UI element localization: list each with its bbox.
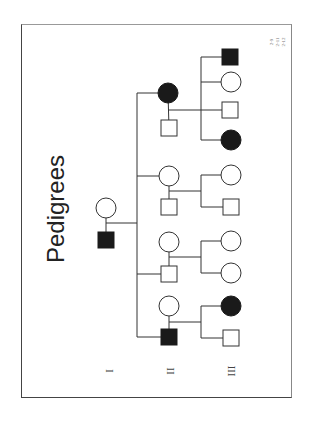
gen-II-square-unaffected-icon [161,266,177,282]
gen-III-circle-affected-icon [221,296,241,316]
reference-label: 2-9 [269,38,274,45]
gen-II-square-affected-icon [161,329,177,345]
generation-label-I: I [103,369,115,373]
title-text: Pedigrees [42,155,69,263]
gen-III-circle-affected-icon [221,130,241,150]
gen-III-circle-unaffected-icon [221,231,241,251]
generation-label-III: III [225,365,237,376]
gen-III-circle-unaffected-icon [221,72,241,92]
gen-II-spouse-square-unaffected-icon [161,199,177,215]
gen-II-spouse-square-unaffected-icon [161,120,177,136]
gen-II-circle-affected-icon [158,83,178,103]
reference-label: 2-11 [275,37,280,46]
gen-I-circle-unaffected-icon [96,198,116,218]
gen-III-circle-unaffected-icon [221,165,241,185]
gen-II-circle-unaffected-icon [159,166,179,186]
pedigree-diagram: Pedigrees 2-92-112-12 IIIIII [0,0,314,422]
gen-III-square-unaffected-icon [223,199,239,215]
gen-II-spouse-circle-unaffected-icon [159,296,179,316]
gen-III-square-affected-icon [222,49,238,65]
reference-labels: 2-92-112-12 [269,37,286,47]
gen-III-square-unaffected-icon [223,330,239,346]
gen-III-circle-unaffected-icon [221,263,241,283]
generation-labels: IIIIII [103,365,237,376]
gen-III-square-unaffected-icon [222,102,238,118]
reference-label: 2-12 [281,37,286,47]
gen-II-spouse-circle-unaffected-icon [159,232,179,252]
gen-I-square-affected-icon [98,232,114,248]
slide-title: Pedigrees [42,155,69,263]
generation-label-II: II [164,367,176,375]
